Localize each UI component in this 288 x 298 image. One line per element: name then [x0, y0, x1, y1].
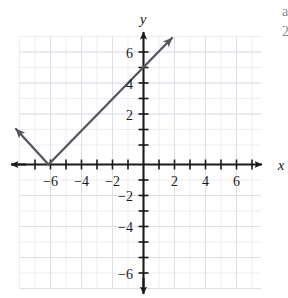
coordinate-graph: −6 −4 −2 2 4 6 6 4 2 −2 −4 −6 y x [0, 0, 288, 298]
x-axis-label: x [277, 157, 285, 173]
y-tick-label--4: −4 [118, 220, 133, 235]
y-tick-label-4: 4 [126, 77, 133, 92]
y-tick-label-2: 2 [126, 108, 133, 123]
curve-right-ray [49, 38, 173, 165]
y-tick-label--6: −6 [118, 267, 133, 282]
grid-major [20, 37, 262, 289]
y-tick-label-6: 6 [126, 46, 133, 61]
grid-minor [20, 37, 262, 289]
margin-fragment-1: a [282, 2, 288, 22]
margin-fragment-2: 2 [282, 22, 288, 42]
x-tick-label--4: −4 [74, 174, 89, 189]
x-tick-label-4: 4 [202, 174, 209, 189]
y-tick-label--2: −2 [118, 189, 133, 204]
x-tick-label--2: −2 [105, 174, 120, 189]
curve-left-ray [16, 129, 49, 165]
function-curve [16, 38, 172, 165]
x-tick-label--6: −6 [43, 174, 58, 189]
figure-container: −6 −4 −2 2 4 6 6 4 2 −2 −4 −6 y x a 2 [0, 0, 288, 298]
y-axis-label: y [138, 11, 147, 27]
x-tick-label-6: 6 [233, 174, 240, 189]
x-tick-labels: −6 −4 −2 2 4 6 [43, 174, 240, 189]
x-tick-label-2: 2 [171, 174, 178, 189]
